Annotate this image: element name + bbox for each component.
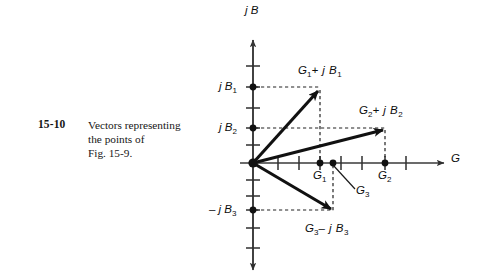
vector-label-3-op: – j B (318, 222, 344, 234)
vector-g2-jb2 (253, 130, 383, 163)
vector-label-3-op-sub: 3 (344, 228, 348, 237)
tick-label-jb1-sub: 1 (232, 86, 236, 95)
vector-label-2-g: G (359, 104, 368, 116)
point-label-g1-text: G (313, 169, 322, 181)
axis-label-g-text: G (451, 152, 460, 164)
point-label-g3: G3 (356, 184, 369, 196)
vector-label-2: G2+ j B2 (359, 104, 403, 116)
axis-label-jb: j B (245, 4, 258, 16)
point-label-g2: G2 (378, 169, 391, 181)
point-label-g2-text: G (378, 169, 387, 181)
point-label-g3-sub: 3 (365, 190, 369, 199)
vector-diagram: j B G j B1 j B2 – j B3 G1 G2 G3 G1+ j B1… (0, 0, 483, 278)
vector-label-3: G3– j B3 (305, 222, 348, 234)
vector-g1-jb1 (253, 91, 318, 163)
vector-label-1: G1+ j B1 (298, 64, 342, 76)
point-label-g1: G1 (313, 169, 326, 181)
marker-g1 (317, 160, 324, 167)
point-label-g3-text: G (356, 184, 365, 196)
vector-label-1-op-sub: 1 (337, 70, 341, 79)
axis-label-jb-text: j B (245, 4, 258, 16)
tick-label-jb1: j B1 (219, 80, 237, 92)
marker-jb2 (250, 125, 257, 132)
vector-label-1-g: G (298, 64, 307, 76)
marker-negjb3 (250, 207, 257, 214)
diagram-canvas (0, 0, 483, 278)
vector-label-2-op-sub: 2 (398, 110, 402, 119)
tick-label-jb1-text: j B (219, 80, 232, 92)
marker-g2 (382, 160, 389, 167)
tick-label-jb2-text: j B (219, 121, 232, 133)
vector-label-3-g: G (305, 222, 314, 234)
vector-label-1-g-sub: 1 (307, 70, 311, 79)
axis-label-g: G (451, 152, 460, 164)
tick-label-jb2: j B2 (219, 121, 237, 133)
tick-label-negjb3-sub: 3 (232, 209, 236, 218)
point-label-g1-sub: 1 (322, 175, 326, 184)
tick-label-negjb3: – j B3 (209, 203, 236, 215)
leader-line-g3 (333, 165, 355, 189)
tick-label-jb2-sub: 2 (232, 127, 236, 136)
tick-label-negjb3-text: – j B (209, 203, 232, 215)
vector-label-3-g-sub: 3 (314, 228, 318, 237)
vector-label-2-op: + j B (372, 104, 398, 116)
vector-label-2-g-sub: 2 (368, 110, 372, 119)
marker-jb1 (250, 84, 257, 91)
point-label-g2-sub: 2 (387, 175, 391, 184)
marker-origin (248, 158, 257, 167)
marker-g3 (330, 160, 337, 167)
vector-label-1-op: + j B (311, 64, 337, 76)
